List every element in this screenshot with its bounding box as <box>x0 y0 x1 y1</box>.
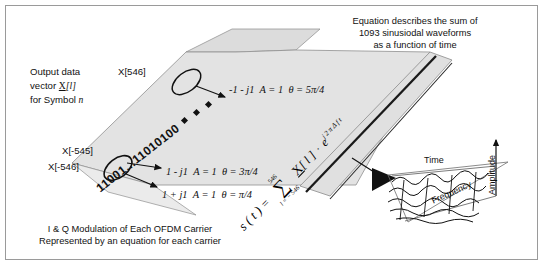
plot3d-time-axis <box>392 166 496 176</box>
constellation-amplitude-0: A = 1 <box>260 84 284 95</box>
constellation-row-2: 1 + j1 A = 1 θ = π/4 <box>162 189 252 200</box>
output-vector-line2-prefix: vector <box>30 80 59 91</box>
top-right-note-line2: 1093 sinusiodal waveforms <box>300 28 530 40</box>
top-right-note-line3: as a function of time <box>300 40 530 52</box>
constellation-phase-1: θ = 3π/4 <box>222 166 258 177</box>
output-vector-line3-prefix: for Symbol <box>30 94 79 105</box>
output-vector-index: [l] <box>66 80 76 91</box>
top-right-note-line1: Equation describes the sum of <box>300 16 530 28</box>
diagram-stage: Output data vector X[l] for Symbol n Equ… <box>0 0 545 267</box>
equation-multiply: · <box>312 143 323 154</box>
plot3d-axis-label-amplitude: Amplitude <box>487 155 497 195</box>
subcarrier-label-bottom: X[-546] <box>48 161 79 172</box>
output-vector-line2: vector X[l] <box>30 80 76 91</box>
output-vector-line1: Output data <box>30 66 80 77</box>
constellation-value-1: 1 - j1 <box>166 166 188 177</box>
output-vector-symbol: X <box>59 80 66 91</box>
constellation-amplitude-2: A = 1 <box>193 189 217 200</box>
equation-equals: = <box>258 196 273 211</box>
bottom-caption-line2: Represented by an equation for each carr… <box>15 236 245 248</box>
constellation-value-0: -1 - j1 <box>229 84 254 95</box>
bottom-caption-line1: I & Q Modulation of Each OFDM Carrier <box>15 224 245 236</box>
subcarrier-label-top: X[546] <box>118 66 146 77</box>
output-vector-symbol-n: n <box>79 94 84 105</box>
plot3d-axis-label-time: Time <box>424 155 444 165</box>
subcarrier-label-mid: X[-545] <box>62 145 93 156</box>
equation-exp-power: j 2 π Δ f t <box>320 116 343 140</box>
constellation-row-0: -1 - j1 A = 1 θ = 5π/4 <box>229 84 324 95</box>
figure-root: Output data vector X[l] for Symbol n Equ… <box>0 0 545 267</box>
constellation-value-2: 1 + j1 <box>162 189 188 200</box>
constellation-row-1: 1 - j1 A = 1 θ = 3π/4 <box>166 166 258 177</box>
constellation-phase-0: θ = 5π/4 <box>288 84 324 95</box>
output-vector-line3: for Symbol n <box>30 94 83 105</box>
constellation-amplitude-1: A = 1 <box>193 166 217 177</box>
